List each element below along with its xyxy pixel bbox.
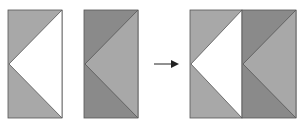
- arrow-right-icon: [154, 60, 179, 68]
- block-a: [8, 10, 62, 118]
- combined-block: [190, 10, 296, 118]
- diagram-canvas: [0, 0, 303, 131]
- block-b: [84, 10, 138, 118]
